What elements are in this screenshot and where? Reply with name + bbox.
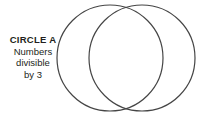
circle-a-description-line-3: by 3 xyxy=(2,69,64,81)
circle-b-shape xyxy=(89,5,195,111)
venn-diagram: CIRCLE A Numbers divisible by 3 xyxy=(0,0,214,118)
circle-a-shape xyxy=(57,5,163,111)
circle-a-description-line-1: Numbers xyxy=(2,46,64,58)
circle-a-label: CIRCLE A Numbers divisible by 3 xyxy=(2,34,64,80)
circle-a-description-line-2: divisible xyxy=(2,57,64,69)
circle-a-title: CIRCLE A xyxy=(2,34,64,46)
